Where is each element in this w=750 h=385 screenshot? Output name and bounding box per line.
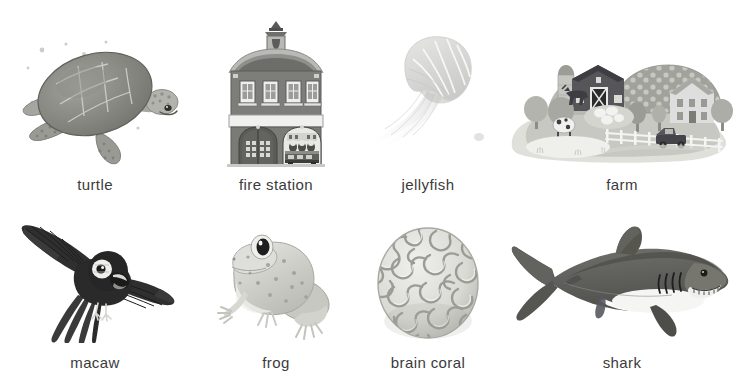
shark-illustration — [508, 225, 736, 343]
grid-item-fire-station[interactable]: fire station — [190, 8, 362, 192]
picture-vocabulary-grid: turtle — [0, 0, 750, 385]
grid-item-macaw[interactable]: macaw — [0, 198, 190, 370]
jellyfish-illustration — [369, 25, 487, 167]
item-label-jellyfish: jellyfish — [402, 177, 455, 192]
fire-station-illustration — [215, 19, 337, 167]
grid-item-farm[interactable]: farm — [494, 26, 750, 192]
item-label-brain-coral: brain coral — [391, 355, 465, 370]
grid-item-shark[interactable]: shark — [494, 206, 750, 370]
item-label-shark: shark — [603, 355, 642, 370]
sea-turtle-illustration — [10, 32, 180, 167]
item-label-frog: frog — [262, 355, 289, 370]
item-label-farm: farm — [606, 177, 638, 192]
macaw-illustration — [10, 215, 180, 343]
frog-illustration — [206, 225, 346, 343]
grid-item-turtle[interactable]: turtle — [0, 20, 190, 192]
brain-coral-illustration — [372, 225, 484, 343]
grid-item-brain-coral[interactable]: brain coral — [362, 206, 494, 370]
item-label-macaw: macaw — [70, 355, 120, 370]
item-label-turtle: turtle — [77, 177, 113, 192]
grid-item-frog[interactable]: frog — [190, 206, 362, 370]
grid-item-jellyfish[interactable]: jellyfish — [362, 14, 494, 192]
farm-scene-illustration — [506, 35, 738, 165]
item-label-fire-station: fire station — [239, 177, 313, 192]
